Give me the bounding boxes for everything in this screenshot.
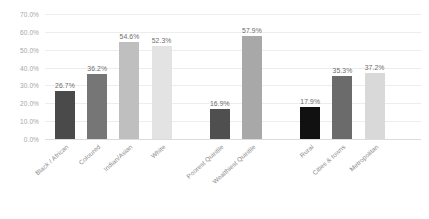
bar-value-label: 37.2% [365,64,385,71]
x-axis-category-label: Rural [298,143,314,159]
bar[interactable] [55,91,75,139]
y-axis-tick-label: 40.0% [20,64,39,71]
x-axis-category-label: Indian/Asian [102,143,134,173]
bar[interactable] [365,73,385,139]
bar-slot: 16.9% [210,14,230,139]
x-axis-category-label: White [149,143,166,159]
bar-slot: 17.9% [300,14,320,139]
bar-value-label: 52.3% [152,37,172,44]
x-axis-category-label: Coloured [77,143,102,166]
y-axis-tick-label: 0.0% [24,136,39,143]
y-axis-tick-label: 10.0% [20,118,39,125]
bar-slot: 57.9% [242,14,262,139]
x-axis-category-label: Metropolitan [348,143,380,173]
bar-slot: 35.3% [332,14,352,139]
bar[interactable] [119,42,139,140]
y-axis: 0.0%10.0%20.0%30.0%40.0%50.0%60.0%70.0% [0,14,43,139]
gridline-00 [45,139,421,140]
bar-slot: 54.6% [119,14,139,139]
x-axis-category-label: Cities & towns [311,143,347,176]
bar[interactable] [87,74,107,139]
y-axis-tick-label: 30.0% [20,82,39,89]
bar[interactable] [242,36,262,139]
bar-slot: 36.2% [87,14,107,139]
bar-value-label: 54.6% [120,33,140,40]
plot-area: 26.7%36.2%54.6%52.3%16.9%57.9%17.9%35.3%… [45,14,421,139]
bar[interactable] [332,76,352,139]
bar-value-label: 57.9% [242,27,262,34]
bar-slot: 52.3% [152,14,172,139]
bar-slot: 37.2% [365,14,385,139]
y-axis-tick-label: 70.0% [20,11,39,18]
y-axis-tick-label: 60.0% [20,28,39,35]
x-axis-category-label: Black / African [34,143,70,176]
y-axis-tick-label: 20.0% [20,100,39,107]
bar[interactable] [300,107,320,139]
x-axis-category-labels: Black / AfricanColouredIndian/AsianWhite… [45,141,421,219]
bar-slot: 26.7% [55,14,75,139]
bar-value-label: 26.7% [55,82,75,89]
bar[interactable] [152,46,172,139]
bar-value-label: 36.2% [87,65,107,72]
y-axis-tick-label: 50.0% [20,46,39,53]
bar-value-label: 17.9% [300,98,320,105]
bar-value-label: 16.9% [210,100,230,107]
bar-value-label: 35.3% [333,67,353,74]
bar-chart: 0.0%10.0%20.0%30.0%40.0%50.0%60.0%70.0% … [0,0,429,219]
bar[interactable] [210,109,230,139]
